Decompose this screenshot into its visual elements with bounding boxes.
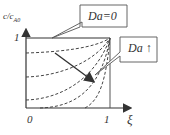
callout-da-up-text: Da ↑ (128, 42, 152, 54)
da-increase-arrow (55, 53, 93, 81)
x-tick-zero: 0 (27, 114, 33, 125)
callout-da-zero-text: Da=0 (88, 10, 117, 22)
concentration-profile-diagram (0, 0, 170, 135)
y-axis-label: c/cA0 (3, 12, 20, 23)
y-tick-one: 1 (14, 32, 20, 43)
x-axis-label: ξ (127, 113, 133, 126)
x-tick-one: 1 (104, 114, 110, 125)
